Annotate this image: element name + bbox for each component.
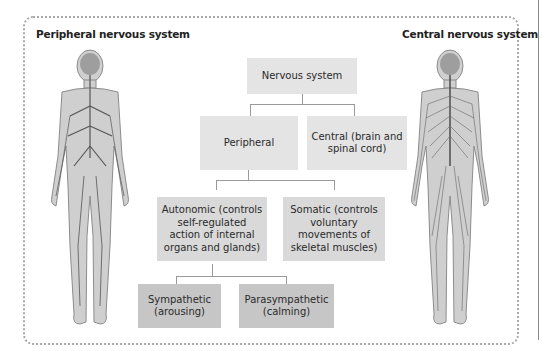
divider <box>538 0 539 340</box>
sympathetic-box: Sympathetic (arousing) <box>138 284 221 328</box>
connector <box>250 104 251 116</box>
peripheral-body-illustration <box>40 46 140 336</box>
connector <box>176 276 177 284</box>
parasympathetic-box: Parasympathetic (calming) <box>239 284 334 328</box>
central-box: Central (brain and spinal cord) <box>307 116 407 170</box>
connector <box>248 170 249 180</box>
connector <box>176 276 286 277</box>
peripheral-title: Peripheral nervous system <box>36 28 190 40</box>
connector <box>212 264 213 276</box>
connector <box>286 276 287 284</box>
autonomic-box: Autonomic (controls self-regulated actio… <box>157 197 267 261</box>
connector <box>354 104 355 116</box>
peripheral-box: Peripheral <box>200 116 298 170</box>
nervous-system-box: Nervous system <box>247 58 357 94</box>
connector <box>250 104 354 105</box>
somatic-box: Somatic (controls voluntary movements of… <box>283 197 385 261</box>
connector <box>334 180 335 190</box>
central-title: Central nervous system <box>402 28 538 40</box>
connector <box>302 94 303 104</box>
connector <box>216 180 334 181</box>
central-body-illustration <box>400 46 500 336</box>
connector <box>216 180 217 190</box>
